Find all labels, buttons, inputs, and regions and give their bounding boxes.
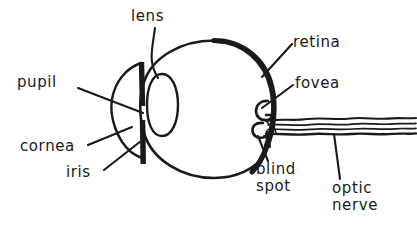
label-retina: retina bbox=[293, 34, 340, 50]
leader-line-cornea bbox=[88, 127, 132, 145]
leader-line-lens bbox=[152, 28, 158, 78]
lens-ellipse bbox=[147, 74, 178, 136]
label-iris: iris bbox=[66, 164, 91, 180]
label-blind-spot-line1: blind bbox=[256, 161, 296, 178]
leader-line-retina bbox=[262, 44, 292, 77]
leader-line-optic-nerve bbox=[334, 134, 340, 179]
fovea-notch bbox=[256, 101, 272, 120]
optic-nerve-bundle bbox=[266, 118, 416, 135]
label-lens: lens bbox=[131, 8, 164, 24]
label-optic-nerve-line2: nerve bbox=[332, 197, 378, 214]
label-optic-nerve: optic nerve bbox=[332, 180, 378, 214]
label-fovea: fovea bbox=[295, 75, 340, 91]
label-pupil: pupil bbox=[17, 74, 57, 90]
label-cornea: cornea bbox=[20, 138, 75, 154]
label-optic-nerve-line1: optic bbox=[332, 180, 378, 197]
eyeball-outline bbox=[140, 41, 265, 179]
label-blind-spot-line2: spot bbox=[256, 178, 296, 195]
label-blind-spot: blind spot bbox=[256, 161, 296, 195]
leader-line-fovea bbox=[262, 85, 293, 108]
eye-anatomy-diagram: lens pupil cornea iris retina fovea blin… bbox=[0, 0, 417, 225]
